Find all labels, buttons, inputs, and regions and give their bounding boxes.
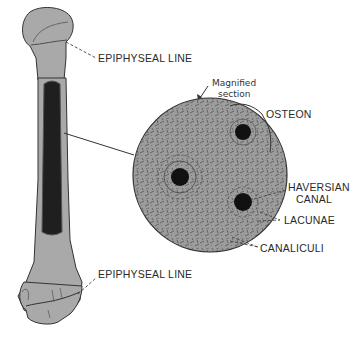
magnified-section: [133, 98, 287, 252]
bone-diagram: EPIPHYSEAL LINE EPIPHYSEAL LINE Magnifie…: [0, 0, 364, 346]
bone-distal-end: [20, 282, 82, 324]
haversian-canal-osteon: [235, 124, 251, 140]
label-epiphyseal-line-top: EPIPHYSEAL LINE: [98, 52, 192, 64]
marrow-cavity: [42, 81, 62, 235]
label-osteon: OSTEON: [266, 108, 312, 120]
haversian-canal-lower: [234, 193, 252, 211]
arrow-magnified: [200, 86, 208, 98]
label-magnified-line1: Magnified: [212, 78, 256, 88]
connector-line: [64, 133, 134, 155]
leader-epiphyseal-top: [66, 42, 96, 58]
section-disc: [133, 98, 287, 252]
bone-proximal-end: [23, 7, 74, 80]
label-magnified-line2: section: [218, 89, 250, 99]
label-canaliculi: CANALICULI: [260, 242, 324, 254]
haversian-canal-center: [171, 168, 189, 186]
label-haversian-2: CANAL: [296, 193, 332, 205]
label-epiphyseal-line-bottom: EPIPHYSEAL LINE: [98, 268, 192, 280]
label-haversian-1: HAVERSIAN: [288, 181, 350, 193]
long-bone: [18, 7, 82, 324]
label-lacunae: LACUNAE: [284, 214, 335, 226]
